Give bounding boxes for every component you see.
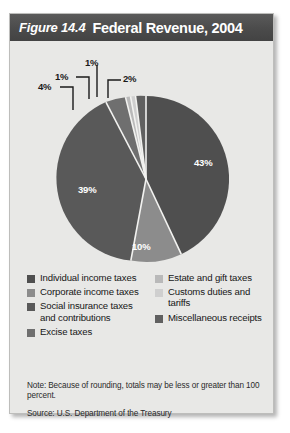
- legend-label: Social insurance taxes and contributions: [40, 300, 149, 322]
- figure-source: Source: U.S. Department of the Treasury: [27, 409, 263, 419]
- figure-header: Figure 14.4 Federal Revenue, 2004: [10, 14, 273, 41]
- legend-item-customs-duties-and-tariffs: Customs duties and tariffs: [155, 286, 263, 308]
- legend-swatch-icon: [27, 289, 35, 297]
- figure-note: Note: Because of rounding, totals may be…: [27, 381, 263, 401]
- pie-value-individual-income-taxes: 43%: [194, 157, 212, 168]
- legend-item-miscellaneous-receipts: Miscellaneous receipts: [155, 312, 263, 323]
- pie-value-social-insurance-taxes: 39%: [78, 184, 96, 195]
- legend-item-corporate-income-taxes: Corporate income taxes: [27, 286, 149, 297]
- pie-value-corporate-income-taxes: 10%: [132, 241, 150, 252]
- legend-column-left: Individual income taxes Corporate income…: [27, 272, 149, 337]
- legend-label: Customs duties and tariffs: [168, 286, 263, 308]
- pie-value-estate-and-gift-taxes: 1%: [55, 71, 68, 82]
- legend-label: Corporate income taxes: [40, 286, 139, 297]
- legend-swatch-icon: [155, 275, 163, 283]
- pie-value-excise-taxes: 4%: [38, 81, 51, 92]
- pie-value-customs-duties-and-tariffs: 1%: [85, 57, 98, 68]
- figure-footnotes: Note: Because of rounding, totals may be…: [27, 381, 263, 419]
- legend-label: Estate and gift taxes: [168, 272, 252, 283]
- figure-card: Figure 14.4 Federal Revenue, 2004: [9, 13, 274, 414]
- legend-label: Excise taxes: [40, 326, 92, 337]
- pie-value-miscellaneous-receipts: 2%: [123, 73, 136, 84]
- legend-label: Individual income taxes: [40, 272, 136, 283]
- legend-column-right: Estate and gift taxes Customs duties and…: [155, 272, 263, 337]
- figure-title: Federal Revenue, 2004: [92, 20, 242, 36]
- legend-item-social-insurance-taxes: Social insurance taxes and contributions: [27, 300, 149, 322]
- pie-chart: 43% 39% 10% 4% 1% 1% 2%: [10, 41, 273, 267]
- legend-swatch-icon: [27, 329, 35, 337]
- pie-chart-svg: [10, 41, 275, 267]
- figure-number: Figure 14.4: [19, 20, 85, 35]
- legend-item-individual-income-taxes: Individual income taxes: [27, 272, 149, 283]
- legend-swatch-icon: [27, 303, 35, 311]
- legend-swatch-icon: [155, 289, 163, 297]
- chart-legend: Individual income taxes Corporate income…: [27, 272, 263, 337]
- legend-swatch-icon: [27, 275, 35, 283]
- legend-item-excise-taxes: Excise taxes: [27, 326, 149, 337]
- legend-label: Miscellaneous receipts: [168, 312, 262, 323]
- legend-swatch-icon: [155, 315, 163, 323]
- legend-item-estate-and-gift-taxes: Estate and gift taxes: [155, 272, 263, 283]
